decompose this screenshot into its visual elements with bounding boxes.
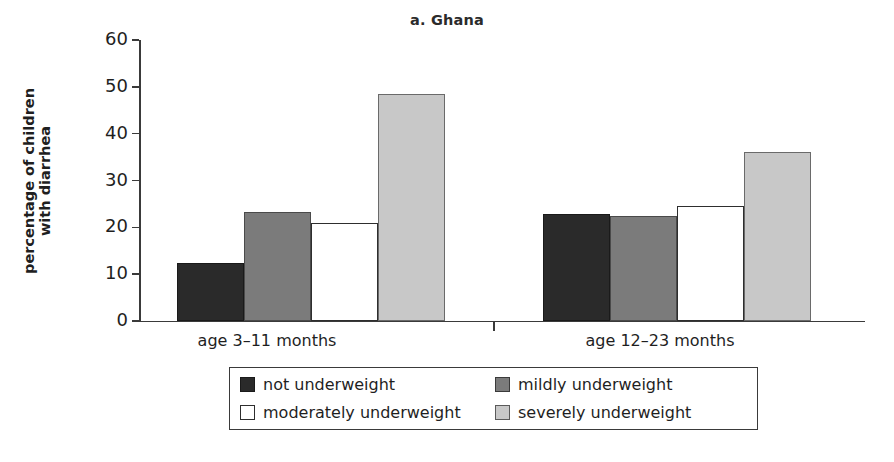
legend-label-moderately-underweight: moderately underweight — [263, 403, 461, 422]
y-tick-label-20: 20 — [105, 217, 128, 235]
legend-item-mildly-underweight[interactable]: mildly underweight — [495, 375, 769, 394]
legend-item-not-underweight[interactable]: not underweight — [240, 375, 495, 394]
y-tick-label-10: 10 — [105, 264, 128, 282]
black-swatch-icon — [240, 377, 255, 392]
y-tick-50 — [132, 86, 139, 88]
bar-moderately-underweight-group-2[interactable] — [677, 206, 744, 321]
category-label-age-12-23-months: age 12–23 months — [535, 331, 785, 350]
y-tick-40 — [132, 133, 139, 135]
legend-item-severely-underweight[interactable]: severely underweight — [495, 403, 769, 422]
white-swatch-icon — [240, 405, 255, 420]
legend-label-severely-underweight: severely underweight — [518, 403, 691, 422]
y-axis-line — [139, 40, 141, 322]
bar-not-underweight-group-2[interactable] — [543, 214, 610, 321]
dark-gray-swatch-icon — [495, 377, 510, 392]
y-tick-60 — [132, 39, 139, 41]
bar-severely-underweight-group-1[interactable] — [378, 94, 445, 321]
chart-figure: a. Ghana percentage of children with dia… — [0, 0, 894, 462]
category-label-age-3-11-months: age 3–11 months — [152, 331, 382, 350]
legend: not underweight mildly underweight moder… — [229, 367, 758, 430]
y-tick-label-50: 50 — [105, 77, 128, 95]
legend-label-mildly-underweight: mildly underweight — [518, 375, 672, 394]
legend-item-moderately-underweight[interactable]: moderately underweight — [240, 403, 495, 422]
bar-moderately-underweight-group-1[interactable] — [311, 223, 378, 321]
y-tick-30 — [132, 180, 139, 182]
legend-label-not-underweight: not underweight — [263, 375, 395, 394]
light-gray-swatch-icon — [495, 405, 510, 420]
y-tick-label-60: 60 — [105, 30, 128, 48]
y-tick-20 — [132, 227, 139, 229]
x-axis-group-separator-tick — [493, 322, 495, 331]
bar-not-underweight-group-1[interactable] — [177, 263, 244, 321]
y-tick-10 — [132, 273, 139, 275]
y-tick-label-40: 40 — [105, 124, 128, 142]
y-tick-label-30: 30 — [105, 171, 128, 189]
bar-severely-underweight-group-2[interactable] — [744, 152, 811, 321]
y-tick-0 — [132, 320, 139, 322]
bar-mildly-underweight-group-2[interactable] — [610, 216, 677, 321]
bar-mildly-underweight-group-1[interactable] — [244, 212, 311, 321]
y-tick-label-0: 0 — [117, 311, 128, 329]
